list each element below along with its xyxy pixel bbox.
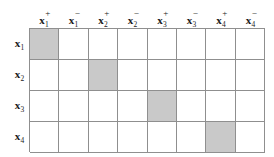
matrix-cell-x4-x1- [59, 122, 88, 153]
variable-superscript: − [193, 9, 198, 18]
variable-label: x1− [69, 15, 78, 27]
variable-superscript: + [45, 9, 50, 18]
matrix-cell-x4-x4- [236, 122, 265, 153]
variable-base: x [157, 14, 163, 26]
variable-base: x [15, 68, 21, 80]
variable-superscript: − [252, 9, 257, 18]
variable-label: x4+ [216, 15, 225, 27]
variable-label: x4− [246, 15, 255, 27]
matrix-cell-x2-x2- [118, 60, 147, 91]
matrix-cell-x1-x3- [177, 29, 206, 60]
variable-label: x1 [15, 38, 24, 50]
matrix-cell-x4-x3+ [148, 122, 177, 153]
variable-label: x2+ [98, 15, 107, 27]
column-header-x4-: x4− [236, 2, 266, 28]
variable-superscript: − [75, 9, 80, 18]
variable-base: x [216, 14, 222, 26]
column-header-x3-: x3− [177, 2, 207, 28]
variable-superscript: + [104, 9, 109, 18]
variable-label: x1+ [39, 15, 48, 27]
matrix-cell-x3-x1+ [30, 91, 59, 122]
variable-base: x [39, 14, 45, 26]
matrix-cell-x3-x3+ [148, 91, 177, 122]
matrix-cell-x4-x1+ [30, 122, 59, 153]
variable-label: x2− [128, 15, 137, 27]
variable-base: x [15, 130, 21, 142]
column-header-x3+: x3+ [147, 2, 177, 28]
variable-superscript: − [134, 9, 139, 18]
row-header-x3: x3 [0, 90, 29, 121]
matrix-cell-x1-x3+ [148, 29, 177, 60]
variable-base: x [98, 14, 104, 26]
variable-label: x3+ [157, 15, 166, 27]
matrix-cell-x1-x4+ [206, 29, 235, 60]
column-header-x2-: x2− [118, 2, 148, 28]
matrix-cell-x3-x1- [59, 91, 88, 122]
matrix-row [30, 91, 265, 122]
variable-label: x2 [15, 69, 24, 81]
matrix-cell-x2-x1- [59, 60, 88, 91]
variable-base: x [15, 37, 21, 49]
matrix-cell-x3-x2+ [89, 91, 118, 122]
variable-label: x4 [15, 131, 24, 143]
matrix-cell-x2-x3- [177, 60, 206, 91]
matrix-cell-x4-x3- [177, 122, 206, 153]
matrix-row [30, 122, 265, 153]
matrix-cell-x1-x2- [118, 29, 147, 60]
matrix-row [30, 60, 265, 91]
matrix-cell-x3-x2- [118, 91, 147, 122]
matrix-cell-x2-x3+ [148, 60, 177, 91]
column-header-x4+: x4+ [206, 2, 236, 28]
matrix-cell-x1-x4- [236, 29, 265, 60]
variable-superscript: + [222, 9, 227, 18]
row-label-column: x1x2x3x4 [0, 28, 29, 152]
row-header-x2: x2 [0, 59, 29, 90]
matrix-row [30, 29, 265, 60]
matrix-cell-x1-x1- [59, 29, 88, 60]
variable-superscript: + [163, 9, 168, 18]
row-header-x1: x1 [0, 28, 29, 59]
matrix-cell-x4-x2+ [89, 122, 118, 153]
matrix-cell-x3-x4+ [206, 91, 235, 122]
matrix-cell-x1-x2+ [89, 29, 118, 60]
variable-subscript: 1 [21, 43, 25, 52]
matrix-cell-x3-x4- [236, 91, 265, 122]
matrix-figure: x1+x1−x2+x2−x3+x3−x4+x4− x1x2x3x4 [0, 0, 274, 157]
matrix-cell-x4-x2- [118, 122, 147, 153]
matrix-cell-x2-x1+ [30, 60, 59, 91]
matrix-cell-x2-x4- [236, 60, 265, 91]
variable-label: x3− [187, 15, 196, 27]
variable-label: x3 [15, 100, 24, 112]
matrix-cell-x1-x1+ [30, 29, 59, 60]
matrix-grid [29, 28, 265, 152]
column-header-x1-: x1− [59, 2, 89, 28]
variable-base: x [15, 99, 21, 111]
column-header-row: x1+x1−x2+x2−x3+x3−x4+x4− [29, 2, 265, 28]
matrix-cell-x3-x3- [177, 91, 206, 122]
matrix-cell-x2-x2+ [89, 60, 118, 91]
matrix-cell-x2-x4+ [206, 60, 235, 91]
column-header-x2+: x2+ [88, 2, 118, 28]
variable-subscript: 2 [21, 74, 25, 83]
variable-subscript: 3 [21, 105, 25, 114]
column-header-x1+: x1+ [29, 2, 59, 28]
variable-subscript: 4 [21, 136, 25, 145]
matrix-cell-x4-x4+ [206, 122, 235, 153]
row-header-x4: x4 [0, 121, 29, 152]
